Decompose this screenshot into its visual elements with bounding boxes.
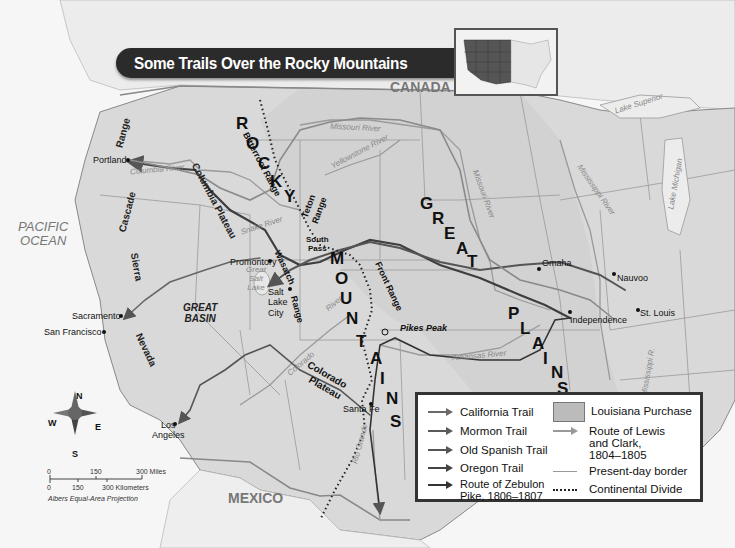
legend-mormon-trail: Mormon Trail: [428, 425, 527, 437]
compass-n: N: [76, 392, 83, 401]
border-line-icon: [553, 465, 583, 477]
locator-us-icon: [456, 30, 556, 94]
label-mountains-o: O: [335, 270, 348, 287]
city-san-francisco: San Francisco: [44, 328, 102, 337]
compass-e: E: [95, 423, 101, 432]
legend-present-day-border: Present-day border: [553, 465, 687, 477]
swatch-louisiana: [553, 402, 585, 422]
legend-oregon-trail: Oregon Trail: [428, 462, 523, 474]
locator-map: [454, 28, 558, 96]
scale-miles-0: 0: [47, 468, 51, 475]
label-south-pass: South Pass: [306, 236, 329, 254]
label-pikes-peak: Pikes Peak: [400, 324, 447, 333]
label-rocky-c: C: [258, 155, 270, 172]
arrow-icon: [553, 425, 583, 437]
label-rocky-y: Y: [284, 188, 295, 205]
arrow-icon: [428, 444, 454, 456]
city-nauvoo: Nauvoo: [617, 274, 648, 283]
city-omaha: Omaha: [542, 259, 572, 268]
city-independence: Independence: [570, 316, 627, 325]
label-mountains-m: M: [330, 250, 344, 267]
legend-continental-divide: Continental Divide: [553, 483, 682, 495]
label-great-salt-lake: Great Salt Lake: [246, 266, 266, 292]
label-mountains-i: N: [386, 390, 398, 407]
city-sacramento: Sacramento: [72, 312, 121, 321]
label-great-e: E: [444, 225, 455, 242]
city-santa-fe: Santa Fe: [343, 405, 380, 414]
scale-miles-300: 300 Miles: [136, 468, 166, 475]
label-mountains-t2: A: [370, 350, 382, 367]
legend-pike-route: Route of Zebulon Pike, 1806–1807: [428, 479, 548, 502]
scale-miles-150: 150: [90, 468, 102, 475]
label-canada: CANADA: [390, 80, 451, 94]
arrow-icon: [428, 406, 454, 418]
label-plains-i: I: [543, 350, 548, 367]
label-plains-p: P: [508, 305, 519, 322]
legend-lewis-clark: Route of Lewis and Clark, 1804–1805: [553, 425, 693, 461]
label-mountains-t: T: [356, 333, 366, 350]
label-mountains-n2: S: [390, 413, 401, 430]
city-los-angeles: Los Angeles: [152, 421, 185, 441]
scale-km-300: 300 Kilometers: [102, 484, 149, 491]
compass-w: W: [48, 419, 57, 428]
city-salt-lake-city: Salt Lake City: [268, 287, 288, 318]
map-legend: California Trail Mormon Trail Old Spanis…: [415, 392, 703, 502]
dotted-line-icon: [553, 483, 583, 495]
scale-km-150: 150: [72, 484, 84, 491]
label-mexico: MEXICO: [228, 491, 283, 505]
compass-s: S: [72, 450, 78, 459]
city-portland: Portland: [93, 156, 127, 165]
label-mountains-n: N: [346, 310, 358, 327]
arrow-icon: [428, 462, 454, 474]
scale-km-0: 0: [47, 484, 51, 491]
label-rocky-k: K: [270, 173, 282, 190]
legend-california-trail: California Trail: [428, 406, 534, 418]
label-rocky-o: O: [246, 135, 259, 152]
legend-louisiana-purchase: Louisiana Purchase: [553, 402, 692, 422]
label-plains-l: L: [520, 320, 530, 337]
label-mountains-a: I: [380, 370, 385, 387]
arrow-icon: [428, 479, 454, 491]
projection-label: Albers Equal-Area Projection: [48, 495, 138, 502]
city-promontory: Promontory: [230, 258, 277, 267]
label-great-r: R: [432, 210, 444, 227]
map-title: Some Trails Over the Rocky Mountains: [134, 54, 407, 74]
label-rocky-r: R: [236, 115, 248, 132]
map-title-bar: Some Trails Over the Rocky Mountains: [116, 48, 456, 78]
legend-old-spanish-trail: Old Spanish Trail: [428, 444, 548, 456]
arrow-icon: [428, 425, 454, 437]
label-great-t: T: [467, 253, 477, 270]
label-great-basin: GREAT BASIN: [183, 302, 217, 324]
city-st-louis: St. Louis: [640, 309, 675, 318]
label-pacific-ocean: PACIFIC OCEAN: [18, 220, 68, 249]
